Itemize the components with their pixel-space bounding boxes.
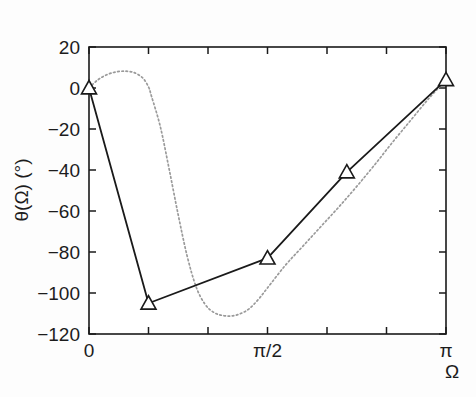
y-tick-label: −100: [37, 283, 80, 304]
x-tick-label: π/2: [253, 340, 282, 361]
x-tick-label: 0: [84, 340, 95, 361]
y-tick-label: −20: [48, 119, 80, 140]
y-axis-title: θ(Ω) (°): [11, 159, 32, 222]
y-tick-label: 0: [69, 78, 80, 99]
x-axis-title: Ω: [445, 361, 459, 382]
y-tick-label: −60: [48, 201, 80, 222]
y-tick-label: 20: [59, 37, 80, 58]
y-tick-label: −80: [48, 242, 80, 263]
plot-frame: [89, 47, 446, 334]
phase-response-plot: 200−20−40−60−80−100−120 0π/2π θ(Ω) (°) Ω: [0, 0, 476, 397]
y-tick-label: −40: [48, 160, 80, 181]
x-axis-tick-labels: 0π/2π: [84, 340, 453, 361]
y-axis-tick-labels: 200−20−40−60−80−100−120: [37, 37, 80, 345]
y-tick-label: −120: [37, 324, 80, 345]
x-tick-label: π: [439, 340, 452, 361]
chart-figure: 200−20−40−60−80−100−120 0π/2π θ(Ω) (°) Ω: [0, 0, 476, 397]
